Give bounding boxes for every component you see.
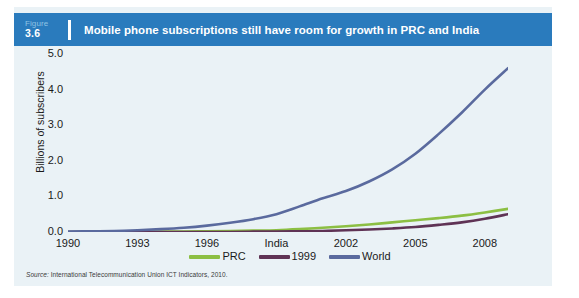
chart-legend: PRC1999World: [14, 251, 552, 262]
x-tick-label: 1990: [45, 238, 91, 249]
figure-panel: Figure 3.6 Mobile phone subscriptions st…: [14, 7, 552, 286]
y-tick-label: 3.0: [31, 119, 63, 130]
source-note: Source: International Telecommunication …: [26, 271, 228, 278]
x-tick-label: 1996: [184, 238, 230, 249]
legend-swatch-prc: [189, 255, 220, 259]
x-tick-label: India: [253, 238, 299, 249]
x-tick-label: 1993: [114, 238, 160, 249]
legend-swatch-1999: [259, 255, 290, 259]
figure-number: 3.6: [25, 28, 68, 39]
chart-region: Billions of subscribers 0.01.02.03.04.05…: [14, 46, 552, 250]
legend-item[interactable]: World: [329, 251, 391, 262]
header-divider: [68, 20, 71, 40]
y-tick-label: 0.0: [31, 226, 63, 237]
y-tick-label: 2.0: [31, 155, 63, 166]
legend-label: World: [362, 251, 391, 262]
source-text: International Telecommunication Union IC…: [51, 271, 228, 278]
figure-title: Mobile phone subscriptions still have ro…: [84, 24, 479, 36]
y-tick-label: 4.0: [31, 84, 63, 95]
y-tick-label: 1.0: [31, 190, 63, 201]
legend-item[interactable]: PRC: [189, 251, 245, 262]
x-tick-label: 2008: [462, 238, 508, 249]
plot-area: [68, 54, 508, 232]
series-line-prc: [68, 209, 508, 232]
legend-label: PRC: [222, 251, 245, 262]
legend-swatch-world: [329, 255, 360, 259]
legend-label: 1999: [292, 251, 316, 262]
line-chart-svg: [68, 54, 508, 232]
y-tick-label: 5.0: [31, 48, 63, 59]
x-tick-label: 2005: [392, 238, 438, 249]
x-tick-label: 2002: [323, 238, 369, 249]
series-line-world: [68, 68, 508, 231]
figure-number-block: Figure 3.6: [14, 20, 68, 39]
figure-header: Figure 3.6 Mobile phone subscriptions st…: [14, 13, 552, 46]
source-label: Source:: [26, 271, 49, 278]
legend-item[interactable]: 1999: [259, 251, 316, 262]
